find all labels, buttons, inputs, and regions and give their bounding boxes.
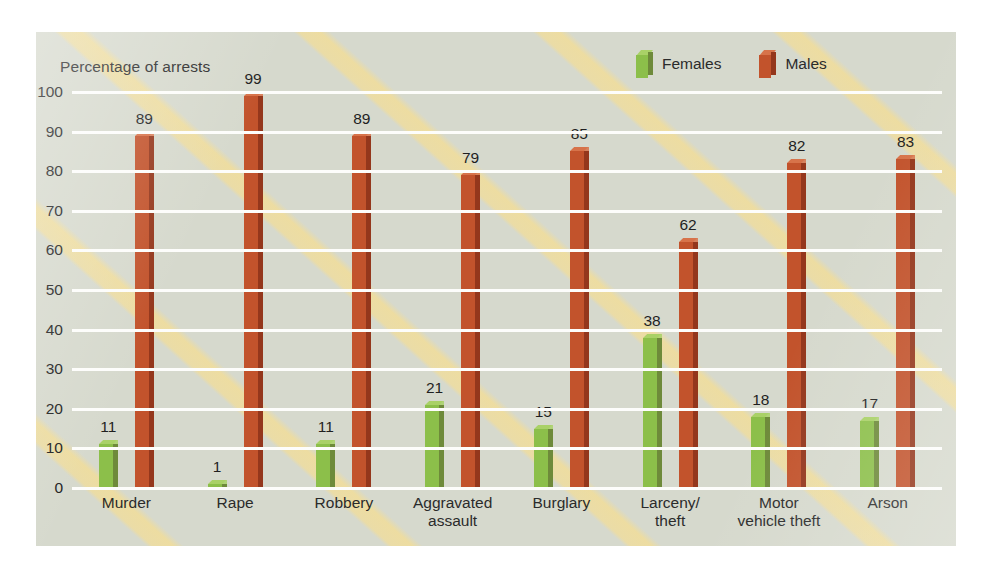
bar-males-arson[interactable]: 83 <box>896 159 915 488</box>
bar-front-face <box>643 338 657 488</box>
bar-top-side-face <box>330 440 335 444</box>
bar-value-label: 38 <box>644 312 661 330</box>
gridline: 60 <box>72 249 942 252</box>
bar-side-face <box>874 421 879 488</box>
bar-front-face <box>896 159 910 488</box>
bar-top-side-face <box>222 480 227 484</box>
bar-males-larceny-theft[interactable]: 62 <box>679 242 698 488</box>
bar-males-burglary[interactable]: 85 <box>570 151 589 488</box>
chart-figure: Percentage of arrests Females Males 10 <box>0 0 991 574</box>
bar-value-label: 1 <box>213 458 222 476</box>
x-axis-label-line: Arson <box>867 494 908 512</box>
bar-top-side-face <box>874 417 879 421</box>
x-axis-label-line: Aggravated <box>413 494 492 512</box>
gridline: 30 <box>72 368 942 371</box>
bar-side-face <box>584 151 589 488</box>
bar-side-face <box>548 429 553 488</box>
gridline: 100 <box>72 91 942 94</box>
cube-green-icon <box>636 50 653 78</box>
bar-top-side-face <box>113 440 118 444</box>
bar-value-label: 83 <box>897 133 914 151</box>
bar-top-side-face <box>439 401 444 405</box>
bar-front-face <box>679 242 693 488</box>
bar-value-label: 82 <box>788 137 805 155</box>
y-axis-tick-label: 80 <box>46 162 63 180</box>
x-axis-label-line: Motor <box>738 494 821 512</box>
y-axis-tick-label: 0 <box>54 479 63 497</box>
bar-males-robbery[interactable]: 89 <box>352 136 371 488</box>
bar-value-label: 89 <box>136 110 153 128</box>
x-axis-label: Burglary <box>533 494 591 512</box>
bar-top-side-face <box>657 334 662 338</box>
bar-side-face <box>149 136 154 488</box>
gridline: 10 <box>72 447 942 450</box>
bar-value-label: 89 <box>353 110 370 128</box>
y-axis-tick-label: 10 <box>46 439 63 457</box>
legend-item-females: Females <box>636 50 721 78</box>
bar-value-label: 99 <box>245 70 262 88</box>
x-axis-label-line: assault <box>413 512 492 530</box>
legend-item-males: Males <box>759 50 826 78</box>
bar-females-robbery[interactable]: 11 <box>316 444 335 488</box>
bar-males-murder[interactable]: 89 <box>135 136 154 488</box>
gridline: 80 <box>72 170 942 173</box>
bar-side-face <box>657 338 662 488</box>
bar-front-face <box>135 136 149 488</box>
bar-value-label: 15 <box>535 403 552 421</box>
bar-side-face <box>765 417 770 488</box>
bar-front-face <box>860 421 874 488</box>
chart-axis-title: Percentage of arrests <box>60 58 210 76</box>
x-axis-label-line: Murder <box>102 494 151 512</box>
bar-side-face <box>366 136 371 488</box>
gridline: 40 <box>72 329 942 332</box>
bar-value-label: 21 <box>426 379 443 397</box>
legend-label-males: Males <box>785 55 826 73</box>
bar-females-motor-vehicle-theft[interactable]: 18 <box>751 417 770 488</box>
bar-top-side-face <box>693 238 698 242</box>
gridline: 20 <box>72 408 942 411</box>
bar-top-side-face <box>584 147 589 151</box>
legend-label-females: Females <box>662 55 721 73</box>
chart-panel: Percentage of arrests Females Males 10 <box>36 32 956 546</box>
y-axis-tick-label: 30 <box>46 360 63 378</box>
bar-top-side-face <box>801 159 806 163</box>
y-axis-tick-label: 100 <box>37 83 63 101</box>
bar-females-murder[interactable]: 11 <box>99 444 118 488</box>
y-axis-tick-label: 70 <box>46 202 63 220</box>
gridline: 0 <box>72 487 942 490</box>
bar-females-larceny-theft[interactable]: 38 <box>643 338 662 488</box>
x-axis-label: Larceny/theft <box>640 494 699 531</box>
x-axis-labels: MurderRapeRobberyAggravatedassaultBurgla… <box>72 494 942 544</box>
x-axis-label-line: Robbery <box>315 494 374 512</box>
y-axis-tick-label: 60 <box>46 241 63 259</box>
bar-front-face <box>99 444 113 488</box>
bar-value-label: 79 <box>462 149 479 167</box>
x-axis-label: Murder <box>102 494 151 512</box>
bar-top-side-face <box>548 425 553 429</box>
y-axis-tick-label: 20 <box>46 400 63 418</box>
bar-value-label: 85 <box>571 125 588 143</box>
gridline: 50 <box>72 289 942 292</box>
y-axis-tick-label: 40 <box>46 321 63 339</box>
bar-front-face <box>570 151 584 488</box>
bar-side-face <box>693 242 698 488</box>
x-axis-label-line: Rape <box>217 494 254 512</box>
bar-value-label: 11 <box>318 418 334 436</box>
bar-side-face <box>910 159 915 488</box>
bar-top-side-face <box>765 413 770 417</box>
bar-females-arson[interactable]: 17 <box>860 421 879 488</box>
x-axis-label: Motorvehicle theft <box>738 494 821 531</box>
x-axis-label-line: vehicle theft <box>738 512 821 530</box>
x-axis-label: Robbery <box>315 494 374 512</box>
bar-females-burglary[interactable]: 15 <box>534 429 553 488</box>
y-axis-tick-label: 90 <box>46 123 63 141</box>
bar-value-label: 62 <box>680 216 697 234</box>
bar-side-face <box>113 444 118 488</box>
bar-side-face <box>330 444 335 488</box>
bar-top-side-face <box>910 155 915 159</box>
gridline: 70 <box>72 210 942 213</box>
chart-legend: Females Males <box>636 50 827 78</box>
bar-value-label: 11 <box>100 418 116 436</box>
bar-value-label: 18 <box>752 391 769 409</box>
y-axis-tick-label: 50 <box>46 281 63 299</box>
